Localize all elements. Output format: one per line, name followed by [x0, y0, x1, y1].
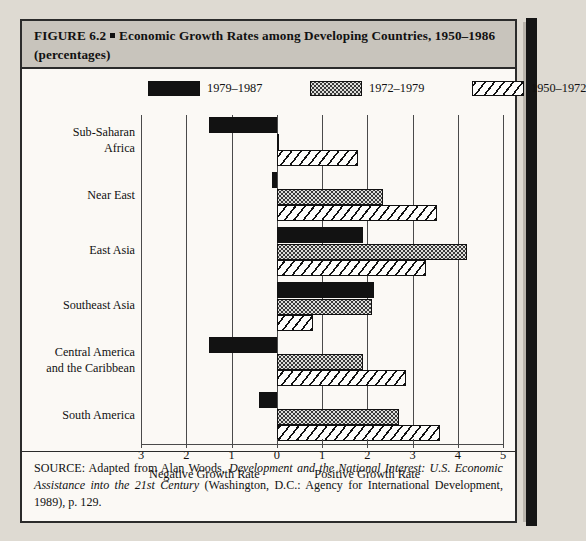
gridline [458, 115, 459, 445]
bar [277, 244, 467, 260]
bar [277, 189, 383, 205]
legend-item[interactable]: 1979–1987 [148, 81, 262, 96]
x-tick-mark [367, 439, 368, 448]
gridline [186, 115, 187, 445]
bar [277, 354, 363, 370]
category-label: South America [23, 408, 135, 424]
bar [277, 370, 406, 386]
category-label: East Asia [23, 243, 135, 259]
bar [277, 205, 438, 221]
x-tick-mark [458, 439, 459, 448]
bullet-square-icon [110, 33, 115, 38]
gridline [413, 115, 414, 445]
legend-label: 1979–1987 [207, 81, 262, 96]
bar [272, 172, 277, 188]
bar [277, 425, 440, 441]
legend-swatch-solid-black [148, 81, 200, 96]
x-tick-mark [413, 439, 414, 448]
legend-label: 1972–1979 [369, 81, 424, 96]
legend-label: 1950–1972 [531, 81, 586, 96]
x-tick-mark [186, 439, 187, 448]
gridline [141, 115, 142, 445]
category-label: Sub-SaharanAfrica [23, 125, 135, 156]
figure-box: FIGURE 6.2Economic Growth Rates among De… [20, 19, 517, 523]
bar [277, 409, 399, 425]
category-axis-labels: Sub-SaharanAfricaNear EastEast AsiaSouth… [22, 115, 135, 445]
x-tick-mark [141, 439, 142, 448]
gridline [367, 115, 368, 445]
x-tick-mark [232, 439, 233, 448]
bar [209, 117, 277, 133]
source-prefix: SOURCE: Adapted from Alan Woods, [34, 461, 229, 475]
legend-swatch-stippled-dots [310, 81, 362, 96]
x-tick-mark [322, 439, 323, 448]
bar [277, 260, 426, 276]
figure-title-band: FIGURE 6.2Economic Growth Rates among De… [22, 21, 515, 69]
source-note: SOURCE: Adapted from Alan Woods, Develop… [22, 451, 515, 521]
category-label: Southeast Asia [23, 298, 135, 314]
bar [277, 282, 374, 298]
chart-region: 1979–19871972–19791950–1972 Sub-SaharanA… [22, 69, 515, 521]
legend-item[interactable]: 1950–1972 [472, 81, 586, 96]
bar [259, 392, 277, 408]
gridline [232, 115, 233, 445]
bar [277, 134, 279, 150]
page-title: FIGURE 6.2Economic Growth Rates among De… [34, 27, 505, 64]
bar [277, 315, 313, 331]
category-label: Near East [23, 188, 135, 204]
x-tick-mark [277, 439, 278, 448]
page-edge-gutter [523, 22, 526, 522]
legend-item[interactable]: 1972–1979 [310, 81, 424, 96]
bar [277, 227, 363, 243]
legend-swatch-diagonal-hatch [472, 81, 524, 96]
chart-legend: 1979–19871972–19791950–1972 [22, 81, 515, 103]
bar [277, 150, 358, 166]
figure-number: FIGURE 6.2 [34, 28, 106, 43]
plot-area [141, 115, 503, 445]
bar [277, 299, 372, 315]
bar [209, 337, 277, 353]
gridline [503, 115, 504, 445]
x-tick-mark [503, 439, 504, 448]
category-label: Central Americaand the Caribbean [23, 345, 135, 376]
